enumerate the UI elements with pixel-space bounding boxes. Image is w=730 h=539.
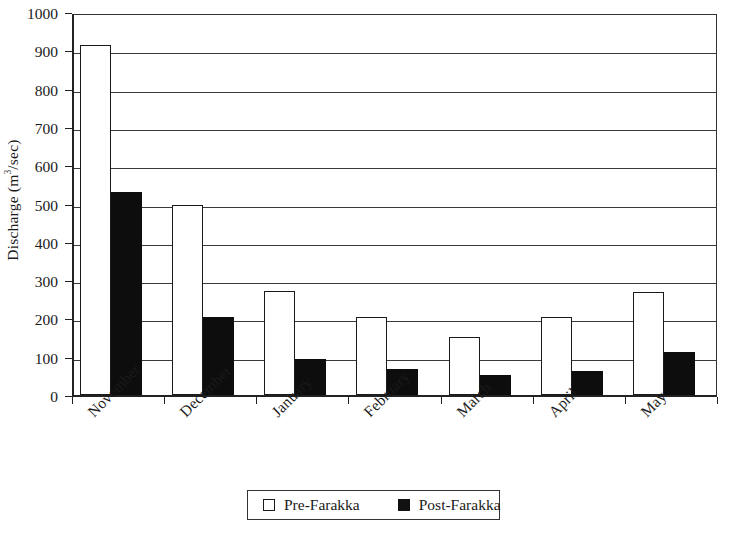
- y-tick-mark: [65, 319, 72, 320]
- y-tick-mark: [65, 90, 72, 91]
- bar-pre-farakka: [356, 317, 387, 396]
- y-tick-mark: [65, 13, 72, 14]
- gridline: [74, 283, 716, 284]
- y-tick-mark: [65, 281, 72, 282]
- legend-entry-post-farakka: Post-Farakka: [398, 496, 501, 514]
- y-tick-mark: [65, 243, 72, 244]
- y-tick-mark: [65, 128, 72, 129]
- gridline: [74, 92, 716, 93]
- x-tick-mark: [441, 397, 442, 404]
- y-axis-ticks: 10009008007006005004003002001000: [0, 0, 72, 539]
- filled-square-icon: [398, 499, 410, 511]
- y-tick-mark: [65, 358, 72, 359]
- y-tick-label: 300: [2, 274, 58, 290]
- x-tick-mark: [533, 397, 534, 404]
- x-tick-mark: [717, 397, 718, 404]
- hollow-square-icon: [263, 499, 275, 511]
- gridline: [74, 207, 716, 208]
- y-tick-label: 100: [2, 351, 58, 367]
- x-tick-mark: [256, 397, 257, 404]
- legend-label-post-farakka: Post-Farakka: [419, 496, 501, 514]
- y-tick-label: 400: [2, 236, 58, 252]
- x-tick-mark: [164, 397, 165, 404]
- y-tick-label: 800: [2, 83, 58, 99]
- gridline: [74, 245, 716, 246]
- y-tick-label: 0: [2, 389, 58, 405]
- page-title: [0, 0, 730, 2]
- y-tick-label: 900: [2, 44, 58, 60]
- y-tick-label: 700: [2, 121, 58, 137]
- legend-entry-pre-farakka: Pre-Farakka: [263, 496, 360, 514]
- x-tick-mark: [625, 397, 626, 404]
- y-tick-label: 500: [2, 198, 58, 214]
- plot-area: [72, 14, 717, 397]
- y-tick-label: 600: [2, 159, 58, 175]
- chart-legend: Pre-Farakka Post-Farakka: [247, 490, 500, 520]
- y-tick-label: 1000: [2, 6, 58, 22]
- gridline: [74, 130, 716, 131]
- gridline: [74, 168, 716, 169]
- y-tick-mark: [65, 396, 72, 397]
- gridline: [74, 53, 716, 54]
- y-tick-mark: [65, 51, 72, 52]
- bar-post-farakka: [664, 352, 695, 395]
- x-tick-mark: [348, 397, 349, 404]
- bar-pre-farakka: [172, 205, 203, 395]
- x-tick-mark: [72, 397, 73, 404]
- gridline: [74, 360, 716, 361]
- legend-label-pre-farakka: Pre-Farakka: [284, 496, 360, 514]
- bar-pre-farakka: [80, 45, 111, 395]
- bar-pre-farakka: [541, 317, 572, 395]
- bar-pre-farakka: [633, 292, 664, 395]
- y-tick-mark: [65, 166, 72, 167]
- y-tick-mark: [65, 205, 72, 206]
- y-tick-label: 200: [2, 312, 58, 328]
- bar-pre-farakka: [264, 291, 295, 395]
- gridline: [74, 321, 716, 322]
